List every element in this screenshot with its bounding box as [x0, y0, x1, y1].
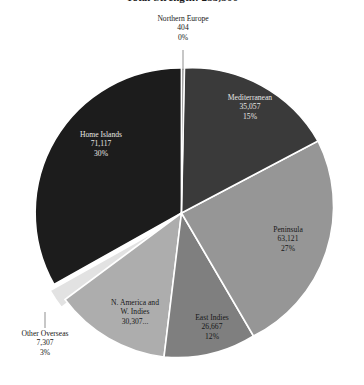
pie-chart-svg [0, 0, 364, 385]
pie-chart-figure: Total Strength: 235,366 Northern Europe … [0, 0, 364, 385]
